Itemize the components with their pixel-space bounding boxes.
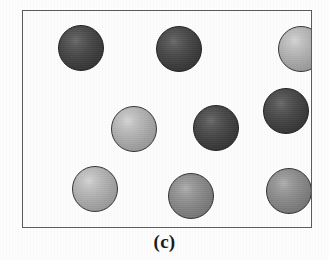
particle-sphere (168, 173, 214, 219)
particle-sphere (72, 166, 118, 212)
particle-sphere (263, 88, 309, 134)
particle-sphere (278, 26, 311, 72)
figure-caption: (c) (0, 231, 329, 253)
figure-panel-c: (c) (0, 0, 329, 260)
particle-sphere (156, 26, 202, 72)
particle-sphere (111, 106, 157, 152)
particle-sphere (193, 105, 239, 151)
particle-container-frame (22, 10, 312, 228)
particle-sphere (58, 25, 104, 71)
particle-sphere (266, 168, 311, 214)
particle-field (23, 11, 311, 227)
